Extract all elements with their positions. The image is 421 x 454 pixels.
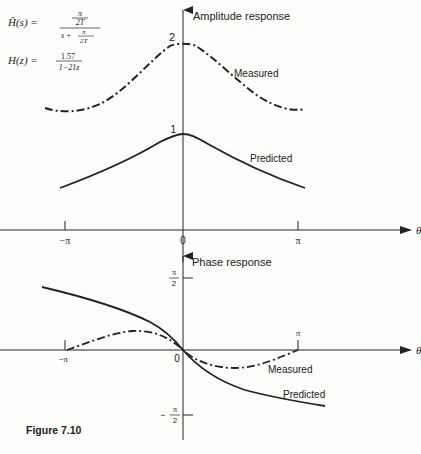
amp-level-1: 1 [170,124,176,135]
amp-tick-pi: π [295,235,300,246]
amplitude-chart: Amplitude response θ −π 0 π 2 1 Measured… [0,10,421,262]
phase-tick-minus-pi: −π [58,354,68,364]
eq-digital-lhs: H(z) = [7,54,38,67]
amp-theta-label: θ [416,224,421,236]
phase-measured-label: Measured [268,364,312,375]
svg-text:π: π [173,405,177,414]
equation-digital: H(z) = 1.57 1−21z [7,52,82,72]
svg-text:π: π [82,28,86,36]
svg-text:s +: s + [61,31,72,40]
amp-predicted-label: Predicted [250,153,292,164]
phase-tick-zero: 0 [174,353,180,364]
figure-caption: Figure 7.10 [26,424,82,436]
amp-measured-label: Measured [234,68,278,79]
svg-text:2T: 2T [80,37,89,45]
phase-title: Phase response [192,256,272,268]
eq-analog-lhs: Ĥ(s) = [7,16,38,29]
amp-tick-minus-pi: −π [60,235,71,246]
phase-predicted-label: Predicted [283,389,325,400]
amp-level-2: 2 [169,31,175,43]
eq-digital-num: 1.57 [61,52,75,61]
phase-tick-pi: π [296,328,301,338]
amp-tick-zero: 0 [180,235,186,246]
eq-analog-num-pi: π [78,9,83,18]
phase-tick-half-pi: π 2 [169,268,179,288]
svg-text:2: 2 [173,416,178,425]
phase-tick-minus-half-pi: − π 2 [160,405,180,425]
svg-text:2T: 2T [76,18,85,27]
phase-chart: Phase response θ −π 0 π π 2 − π 2 Predic… [0,256,421,440]
phase-theta-label: θ [416,344,421,356]
amp-x-arrow-icon [400,226,412,234]
svg-text:π: π [172,268,176,277]
equation-analog: Ĥ(s) = π 2T s + π 2T [7,9,100,45]
amp-title: Amplitude response [193,10,290,22]
figure-canvas: Ĥ(s) = π 2T s + π 2T H(z) = 1.57 1−21z A… [0,0,421,454]
eq-digital-den: 1−21z [59,63,80,72]
phase-x-arrow-icon [400,346,412,354]
svg-text:2: 2 [172,279,177,288]
svg-text:−: − [160,410,165,420]
